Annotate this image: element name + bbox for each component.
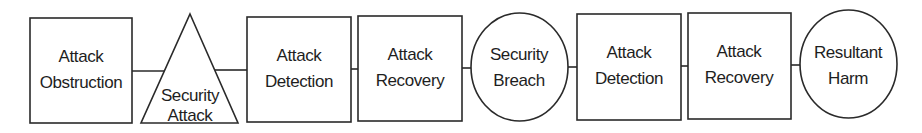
label-line-2: Attack — [168, 106, 214, 125]
label-line-2: Harm — [828, 69, 868, 88]
node-attack-recovery-1: Attack Recovery — [358, 16, 462, 121]
label-line-2: Recovery — [705, 68, 775, 87]
label-line-1: Attack — [388, 45, 434, 64]
box-attack-recovery-1 — [358, 16, 462, 121]
box-attack-recovery-2 — [688, 13, 791, 119]
label-line-2: Breach — [493, 71, 544, 90]
label-line-2: Detection — [595, 69, 663, 88]
node-attack-detection-2: Attack Detection — [577, 14, 681, 120]
label-line-1: Attack — [607, 43, 653, 62]
label-line-2: Recovery — [376, 71, 446, 90]
node-security-breach: Security Breach — [471, 13, 568, 121]
security-flow-diagram: Attack Obstruction Security Attack Attac… — [0, 0, 922, 133]
box-attack-detection-1 — [247, 17, 351, 122]
label-line-1: Attack — [277, 46, 323, 65]
label-line-2: Obstruction — [40, 73, 123, 92]
box-attack-detection-2 — [577, 14, 681, 120]
circle-security-breach — [471, 13, 568, 121]
node-attack-obstruction: Attack Obstruction — [30, 18, 132, 123]
label-line-1: Security — [161, 86, 220, 105]
label-line-2: Detection — [265, 72, 333, 91]
label-line-1: Security — [490, 45, 549, 64]
node-attack-detection-1: Attack Detection — [247, 17, 351, 122]
node-resultant-harm: Resultant Harm — [800, 10, 897, 118]
node-attack-recovery-2: Attack Recovery — [688, 13, 791, 119]
label-line-1: Attack — [717, 42, 763, 61]
box-attack-obstruction — [30, 18, 132, 123]
circle-resultant-harm — [800, 10, 897, 118]
label-line-1: Attack — [59, 47, 105, 66]
label-line-1: Resultant — [814, 43, 883, 62]
